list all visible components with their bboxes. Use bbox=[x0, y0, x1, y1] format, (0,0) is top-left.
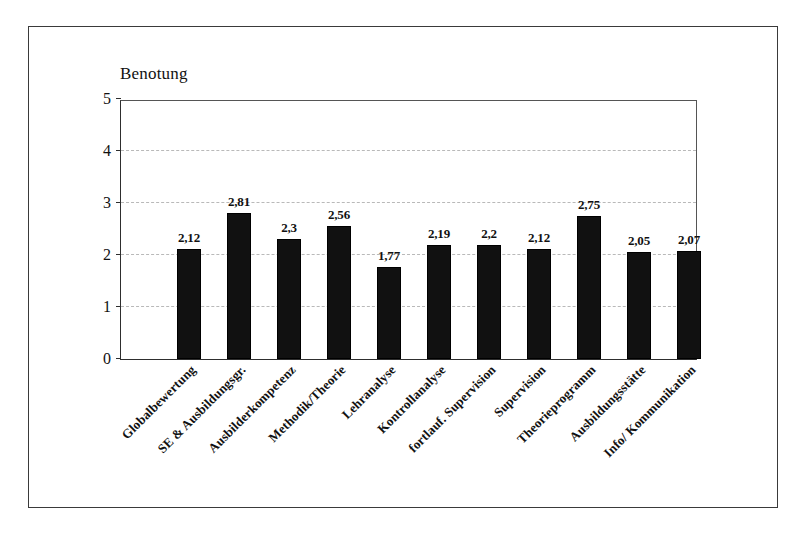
y-axis-tick bbox=[116, 98, 121, 99]
bar-value-label: 2,56 bbox=[328, 207, 350, 223]
bar-value-label: 2,81 bbox=[228, 194, 250, 210]
bar-group: 2,12 bbox=[177, 101, 201, 359]
plot-area: 012345 2,122,812,32,561,772,192,22,122,7… bbox=[120, 100, 697, 360]
y-axis-tick-label: 0 bbox=[89, 351, 111, 367]
y-axis-tick-label: 5 bbox=[89, 91, 111, 107]
y-axis-tick-label: 4 bbox=[89, 143, 111, 159]
x-axis-label-text: Ausbilderkompetenz bbox=[205, 362, 299, 456]
bar-value-label: 2,19 bbox=[428, 226, 450, 242]
bars-layer: 2,122,812,32,561,772,192,22,122,752,052,… bbox=[121, 101, 696, 359]
y-axis-tick-label: 1 bbox=[89, 299, 111, 315]
bar-value-label: 1,77 bbox=[378, 248, 400, 264]
y-axis-tick-label: 2 bbox=[89, 247, 111, 263]
x-axis-label-text: fortlauf. Supervision bbox=[405, 362, 499, 456]
bar-value-label: 2,07 bbox=[678, 232, 700, 248]
bar[interactable] bbox=[177, 249, 201, 359]
bar-value-label: 2,12 bbox=[178, 230, 200, 246]
bar-value-label: 2,12 bbox=[528, 230, 550, 246]
x-axis-label-text: SE & Ausbildungsgr. bbox=[154, 362, 249, 457]
x-axis-label-text: Info/ Kommunikation bbox=[601, 362, 700, 461]
x-axis-labels: GlobalbewertungSE & Ausbildungsgr.Ausbil… bbox=[120, 362, 740, 492]
bar-value-label: 2,75 bbox=[578, 197, 600, 213]
bar-value-label: 2,2 bbox=[481, 226, 497, 242]
y-axis-tick-label: 3 bbox=[89, 195, 111, 211]
bar-value-label: 2,05 bbox=[628, 233, 650, 249]
y-axis-title: Benotung bbox=[120, 64, 188, 84]
bar-value-label: 2,3 bbox=[281, 220, 297, 236]
